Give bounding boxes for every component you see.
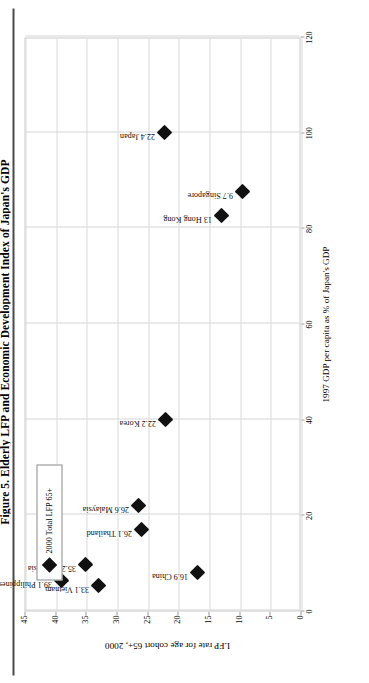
y-tick-mark	[55, 611, 56, 615]
data-point-label: 9.7 Singapore	[187, 190, 232, 199]
y-tick-mark	[300, 611, 301, 615]
y-tick-label: 45	[20, 615, 29, 639]
x-tick-label: 60	[304, 310, 313, 338]
y-tick-mark	[239, 611, 240, 615]
data-point-marker	[234, 184, 250, 200]
data-point-marker	[77, 556, 93, 572]
y-tick-label: 0	[296, 615, 305, 639]
data-point-marker	[133, 521, 149, 537]
gridline-horizontal	[148, 38, 149, 610]
gridline-horizontal	[25, 38, 26, 610]
data-point-marker	[190, 564, 206, 580]
gridline-horizontal	[178, 38, 179, 610]
x-tick-label: 0	[304, 597, 313, 625]
gridline-horizontal	[240, 38, 241, 610]
y-tick-label: 40	[50, 615, 59, 639]
y-tick-label: 15	[204, 615, 213, 639]
y-tick-mark	[24, 611, 25, 615]
gridline-vertical	[25, 513, 299, 514]
legend-label: 2000 Total LFP 65+	[45, 487, 54, 553]
y-tick-mark	[116, 611, 117, 615]
data-point-marker	[213, 208, 229, 224]
data-point-label: 33.1 Vietnam	[45, 584, 89, 593]
chart-figure: Figure 5. Elderly LFP and Economic Devel…	[0, 0, 369, 683]
data-point-label: 39.1 Philippines	[0, 579, 52, 588]
gridline-vertical	[25, 322, 299, 323]
data-point-label: 26.6 Malaysia	[82, 504, 128, 513]
gridline-vertical	[25, 35, 299, 36]
x-tick-label: 120	[304, 23, 313, 51]
y-tick-label: 30	[112, 615, 121, 639]
legend-box: 2000 Total LFP 65+	[36, 464, 62, 580]
y-tick-mark	[85, 611, 86, 615]
rotated-figure-wrapper: Figure 5. Elderly LFP and Economic Devel…	[0, 0, 369, 683]
y-tick-label: 5	[265, 615, 274, 639]
y-tick-label: 35	[81, 615, 90, 639]
data-point-label: 22.4 Japan	[119, 131, 154, 140]
data-point-label: 22.2 Korea	[119, 418, 155, 427]
y-tick-label: 25	[142, 615, 151, 639]
x-tick-mark	[300, 36, 304, 37]
plot-area: 39.1 Philippines35.2 Indonesia33.1 Vietn…	[24, 37, 300, 611]
x-tick-label: 80	[304, 214, 313, 242]
y-tick-mark	[177, 611, 178, 615]
data-point-marker	[130, 497, 146, 513]
diamond-marker-icon	[41, 557, 57, 573]
y-tick-mark	[147, 611, 148, 615]
y-tick-mark	[208, 611, 209, 615]
gridline-horizontal	[117, 38, 118, 610]
x-tick-label: 100	[304, 119, 313, 147]
gridline-vertical	[25, 609, 299, 610]
y-axis-label: LFP rate for age cohort 65+, 2000	[37, 640, 297, 650]
data-point-label: 13 Hong Kong	[163, 214, 212, 223]
x-tick-label: 20	[304, 501, 313, 529]
data-point-marker	[157, 411, 173, 427]
y-tick-label: 10	[234, 615, 243, 639]
x-tick-label: 40	[304, 406, 313, 434]
data-point-label: 16.9 China	[152, 571, 188, 580]
gridline-horizontal	[209, 38, 210, 610]
gridline-horizontal	[86, 38, 87, 610]
data-point-marker	[90, 577, 106, 593]
y-tick-label: 20	[173, 615, 182, 639]
y-tick-mark	[269, 611, 270, 615]
data-point-marker	[156, 124, 172, 140]
data-point-label: 26.1 Thailand	[86, 528, 131, 537]
gridline-horizontal	[301, 38, 302, 610]
gridline-vertical	[25, 226, 299, 227]
gridline-horizontal	[270, 38, 271, 610]
x-axis-label: 1997 GDP per capita as % of Japan's GDP	[320, 37, 330, 611]
